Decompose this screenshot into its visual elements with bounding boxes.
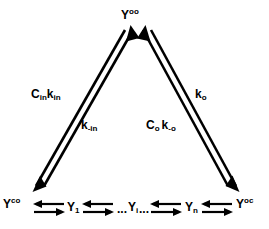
node-y-oo-superscript: oo (129, 7, 139, 16)
scheme-vector-canvas (0, 0, 269, 229)
right-diagonal-arrowhead-up-icon (137, 25, 151, 42)
node-y-co-base: Y (3, 197, 11, 211)
rate-k-o-subscript: o (202, 93, 207, 102)
node-y-oo-base: Y (121, 8, 129, 22)
chain-3-forward-arrowhead-icon (173, 208, 182, 216)
left-diagonal-line-down (36, 30, 125, 186)
chain-2-reverse-arrowhead-icon (82, 200, 91, 208)
chain-4-forward-arrowhead-icon (224, 208, 233, 216)
chain-arrow-pair-1 (33, 200, 65, 216)
node-label-y-1: Y1 (67, 201, 79, 213)
node-y-i-base: Y (128, 200, 136, 214)
left-diagonal-arrowhead-down-icon (33, 176, 47, 192)
node-y-n-subscript: n (193, 206, 198, 215)
rate-label-k-o: ko (195, 88, 207, 100)
rate-label-co-k-minus-o: Cok-o (146, 119, 176, 131)
node-label-y-n: Yn (185, 201, 198, 213)
rate-k-minus-in-subscript: -in (88, 124, 98, 133)
chain-arrow-pair-3 (150, 200, 182, 216)
reaction-scheme-diagram: Yoo Yco Yoc Y1 ... Yi ... Yn Cinkin k-in… (0, 0, 269, 229)
rate-c-o-subscript: o (155, 124, 160, 133)
chain-1-forward-arrowhead-icon (56, 208, 65, 216)
node-label-y-oo: Yoo (121, 9, 139, 21)
node-y-1-base: Y (67, 200, 75, 214)
node-y-oc-superscript: oc (244, 196, 253, 205)
node-y-n-base: Y (185, 200, 193, 214)
chain-ellipsis-left: ... (117, 203, 127, 215)
rate-k-minus-o-subscript: -o (168, 124, 176, 133)
rate-k-minus-in-base: k (81, 118, 88, 132)
chain-1-reverse-arrowhead-icon (33, 200, 42, 208)
node-label-y-i: Yi (128, 201, 138, 213)
rate-c-in-subscript: in (40, 93, 47, 102)
rate-c-o-base: C (146, 118, 155, 132)
chain-4-reverse-arrowhead-icon (201, 200, 210, 208)
chain-ellipsis-right: ... (139, 203, 149, 215)
node-y-oc-base: Y (236, 197, 244, 211)
chain-2-forward-arrowhead-icon (105, 208, 114, 216)
right-diagonal-edge (137, 25, 240, 192)
rate-k-in-subscript: in (53, 93, 60, 102)
right-diagonal-line-down (143, 30, 228, 186)
chain-arrow-pair-4 (201, 200, 233, 216)
right-diagonal-arrowhead-down-icon (226, 176, 240, 193)
rate-label-cin-kin: Cinkin (31, 88, 61, 100)
chain-3-reverse-arrowhead-icon (150, 200, 159, 208)
left-diagonal-arrowhead-up-icon (126, 25, 140, 42)
node-y-i-subscript: i (136, 206, 138, 215)
node-label-y-oc: Yoc (236, 198, 253, 210)
rate-c-in-base: C (31, 87, 40, 101)
node-y-1-subscript: 1 (75, 206, 79, 215)
right-diagonal-line-up (151, 30, 236, 186)
chain-arrow-pair-2 (82, 200, 114, 216)
node-label-y-co: Yco (3, 198, 20, 210)
rate-label-k-minus-in: k-in (81, 119, 97, 131)
left-diagonal-edge (33, 25, 140, 192)
rate-k-o-base: k (195, 87, 202, 101)
left-diagonal-line-up (44, 30, 133, 186)
node-y-co-superscript: co (11, 196, 20, 205)
